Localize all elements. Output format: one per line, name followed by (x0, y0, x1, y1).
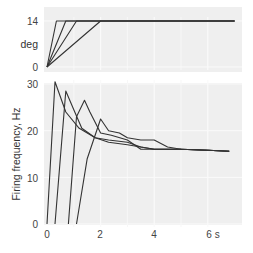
bottom-ytick-20: 20 (27, 126, 39, 137)
figure: 14 deg 0 30 20 10 0 Firing frequency, Hz… (0, 0, 253, 253)
bottom-ylabel: Firing frequency, Hz (10, 107, 22, 200)
bottom-panel: 30 20 10 0 Firing frequency, Hz 0 2 4 6 … (10, 79, 242, 240)
bottom-ytick-30: 30 (27, 79, 39, 90)
top-panel: 14 deg 0 (20, 7, 242, 73)
xtick-6: 6 s (206, 229, 219, 240)
bottom-ytick-10: 10 (27, 173, 39, 184)
top-ytick-0: 0 (32, 62, 38, 73)
top-ylabel: deg (20, 38, 38, 50)
xtick-2: 2 (97, 229, 103, 240)
top-ytick-14: 14 (27, 16, 39, 27)
bottom-ytick-0: 0 (32, 219, 38, 230)
xtick-0: 0 (44, 229, 50, 240)
xtick-4: 4 (151, 229, 157, 240)
